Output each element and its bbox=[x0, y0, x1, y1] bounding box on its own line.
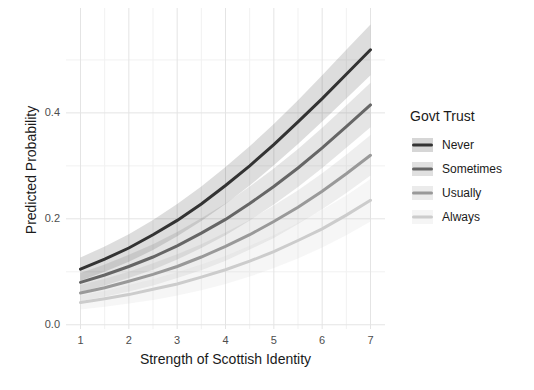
x-tick-label-1: 1 bbox=[77, 334, 83, 346]
legend-key-icon-always bbox=[412, 209, 433, 225]
x-tick-label-3: 3 bbox=[174, 334, 180, 346]
legend-key-icon-never bbox=[412, 137, 433, 153]
y-tick-label-0.0: 0.0 bbox=[0, 318, 60, 331]
legend-key-icon-sometimes bbox=[412, 161, 433, 177]
x-tick-label-4: 4 bbox=[222, 334, 228, 346]
legend-label-usually: Usually bbox=[442, 186, 481, 200]
legend-item-never: Never bbox=[410, 133, 530, 157]
legend-item-always: Always bbox=[410, 205, 530, 229]
legend-item-sometimes: Sometimes bbox=[410, 157, 530, 181]
legend-items: NeverSometimesUsuallyAlways bbox=[410, 133, 530, 229]
legend: Govt Trust NeverSometimesUsuallyAlways bbox=[410, 108, 530, 229]
x-tick-label-7: 7 bbox=[367, 334, 373, 346]
legend-item-usually: Usually bbox=[410, 181, 530, 205]
y-tick-label-0.2: 0.2 bbox=[0, 212, 60, 225]
plot-panel bbox=[66, 8, 385, 329]
x-tick-label-2: 2 bbox=[126, 334, 132, 346]
x-axis-title: Strength of Scottish Identity bbox=[66, 351, 385, 367]
chart-figure: Predicted Probability 0.00.20.4 1234567 … bbox=[0, 0, 534, 390]
y-tick-label-0.4: 0.4 bbox=[0, 106, 60, 119]
legend-label-never: Never bbox=[442, 138, 474, 152]
x-tick-label-6: 6 bbox=[319, 334, 325, 346]
legend-title: Govt Trust bbox=[410, 108, 530, 124]
legend-label-sometimes: Sometimes bbox=[442, 162, 502, 176]
legend-key-icon-usually bbox=[412, 185, 433, 201]
legend-label-always: Always bbox=[442, 210, 480, 224]
x-tick-label-5: 5 bbox=[271, 334, 277, 346]
